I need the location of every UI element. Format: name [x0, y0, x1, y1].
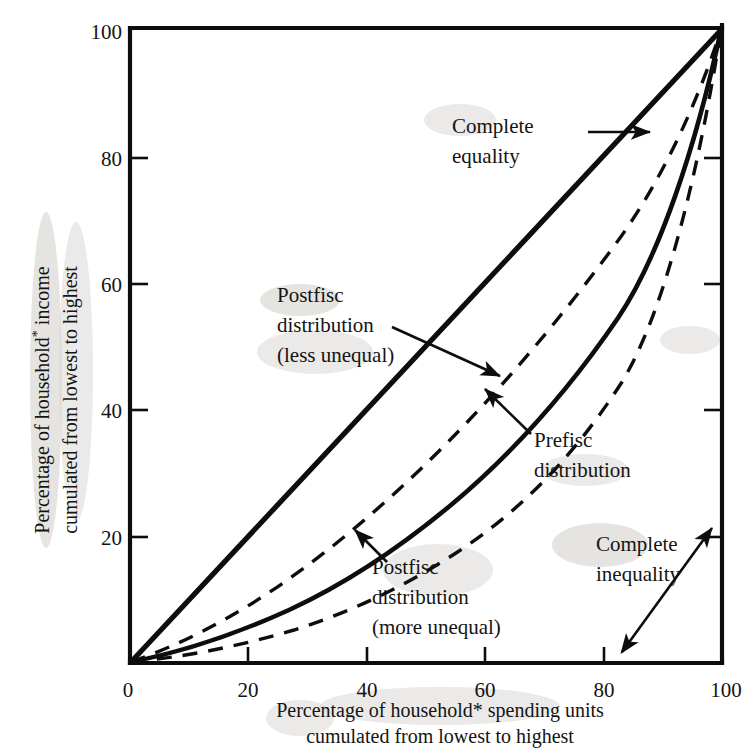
y-tick-label-100: 100 — [91, 20, 123, 44]
annotation-postfisc-less-line1: Postfisc — [277, 283, 344, 307]
y-axis-title-line1: Percentage of household* income — [30, 266, 55, 534]
x-axis-title-line2: cumulated from lowest to highest — [306, 725, 574, 748]
y-axis-title-asterisk: * — [30, 330, 45, 337]
x-tick-label-20: 20 — [238, 678, 259, 702]
x-tick-label-0: 0 — [123, 678, 134, 702]
y-axis-title-line1-tail: income — [31, 266, 53, 330]
annotation-complete-equality-line2: equality — [452, 144, 520, 168]
y-axis-ticks — [130, 158, 148, 537]
annotation-postfisc-more-line3: (more unequal) — [372, 615, 501, 639]
y-tick-label-20: 20 — [101, 526, 122, 550]
y-axis-title-line2: cumulated from lowest to highest — [59, 266, 82, 534]
x-axis-ticks — [248, 647, 604, 663]
annotation-prefisc-arrow — [485, 389, 531, 434]
x-axis-title-line1: Percentage of household* spending units — [276, 699, 604, 722]
annotation-prefisc-line2: distribution — [534, 458, 631, 482]
annotation-postfisc-less-line3: (less unequal) — [277, 343, 394, 367]
annotation-postfisc-less-line2: distribution — [277, 313, 374, 337]
annotation-prefisc-line1: Prefisc — [534, 428, 592, 452]
annotation-complete-inequality-line1: Complete — [596, 532, 678, 556]
annotation-postfisc-more-arrow — [355, 530, 387, 562]
y-tick-labels: 100 80 60 40 20 — [91, 20, 123, 550]
y-tick-label-60: 60 — [101, 273, 122, 297]
annotation-complete-inequality-line2: inequality — [596, 562, 680, 586]
chart-canvas: 100 80 60 40 20 0 20 40 60 80 100 — [0, 0, 753, 756]
y-tick-label-80: 80 — [101, 147, 122, 171]
annotation-postfisc-more-line2: distribution — [372, 585, 469, 609]
annotation-complete-equality-line1: Complete — [452, 114, 534, 138]
y-axis-title-line1-head: Percentage of household — [31, 337, 54, 534]
annotation-postfisc-less-unequal: Postfisc distribution (less unequal) — [277, 283, 500, 376]
lorenz-curve-figure: 100 80 60 40 20 0 20 40 60 80 100 — [0, 0, 753, 756]
annotation-prefisc: Prefisc distribution — [485, 389, 631, 482]
y-tick-label-40: 40 — [101, 399, 122, 423]
x-tick-label-100: 100 — [710, 678, 742, 702]
scan-artifacts — [30, 104, 720, 736]
annotation-complete-inequality: Complete inequality — [596, 528, 712, 652]
